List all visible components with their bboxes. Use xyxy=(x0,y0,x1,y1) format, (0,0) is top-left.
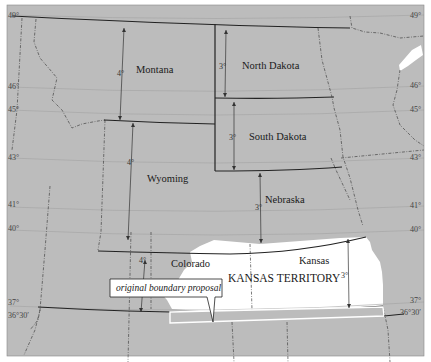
latitude-label-right: 43° xyxy=(410,153,421,162)
state-label-south-dakota: South Dakota xyxy=(249,131,307,142)
territory-label: KANSAS TERRITORY xyxy=(228,272,341,284)
latitude-label-right: 41° xyxy=(410,201,421,210)
latitude-label-left: 49° xyxy=(8,11,19,20)
callout-text: original boundary proposal xyxy=(116,283,222,293)
state-label-colorado: Colorado xyxy=(171,258,210,269)
latitude-label-left: 37° xyxy=(8,298,19,307)
span-label: 3° xyxy=(219,62,226,71)
span-label: 4° xyxy=(117,69,124,78)
state-label-nebraska: Nebraska xyxy=(265,194,305,205)
latitude-label-right: 37° xyxy=(410,296,421,305)
span-label: 3° xyxy=(255,203,262,212)
kansas-territory-map: Montana North Dakota South Dakota Wyomin… xyxy=(0,0,431,362)
state-label-north-dakota: North Dakota xyxy=(242,60,300,71)
span-label: 4° xyxy=(127,158,134,167)
span-label: 4° xyxy=(139,256,146,265)
state-label-montana: Montana xyxy=(136,64,174,75)
span-label: 3° xyxy=(229,133,236,142)
latitude-label-right: 49° xyxy=(410,11,421,20)
latitude-label-right: 40° xyxy=(410,225,421,234)
state-label-kansas: Kansas xyxy=(299,255,329,266)
latitude-label-left: 41° xyxy=(8,200,19,209)
state-label-wyoming: Wyoming xyxy=(147,173,189,184)
latitude-label-left: 43° xyxy=(8,153,19,162)
latitude-label-left: 45° xyxy=(8,105,19,114)
span-label: 3° xyxy=(341,271,348,280)
latitude-label-left: 46° xyxy=(8,82,19,91)
latitude-label-left: 36°30′ xyxy=(8,311,29,320)
latitude-label-right: 45° xyxy=(410,105,421,114)
latitude-label-left: 40° xyxy=(8,224,19,233)
latitude-label-right: 36°30′ xyxy=(400,308,421,317)
latitude-label-right: 46° xyxy=(410,81,421,90)
